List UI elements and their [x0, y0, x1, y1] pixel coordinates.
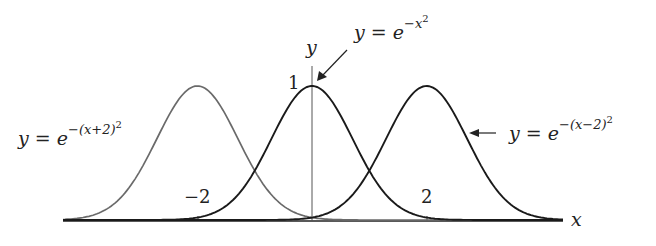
x-axis-label: x — [571, 208, 582, 230]
curve-shift-left — [63, 86, 563, 220]
curve-center — [63, 86, 563, 220]
label-left-gaussian: y = e−(x+2)2 — [17, 119, 122, 149]
svg-text:y = e−(x+2)2: y = e−(x+2)2 — [17, 119, 122, 149]
y-tick-label-one: 1 — [288, 72, 299, 93]
x-tick-label-neg2: −2 — [184, 186, 211, 207]
label-right-exponent: −(x−2) — [559, 117, 607, 132]
label-center-exponent: −x — [404, 16, 423, 31]
x-tick-label-pos2: 2 — [421, 186, 432, 207]
label-center-base: y = e — [353, 21, 404, 43]
label-center-gaussian: y = e−x2 — [353, 13, 429, 43]
label-right-base: y = e — [508, 122, 559, 144]
gaussian-shift-chart: x y −2 2 1 y = e−x2 y = e−(x+2)2 y = e−(… — [0, 0, 656, 246]
label-right-exponent-power: 2 — [607, 114, 613, 125]
arrow-right-curve-icon — [469, 129, 496, 137]
curve-shift-right — [63, 86, 563, 220]
svg-text:y = e−(x−2)2: y = e−(x−2)2 — [508, 114, 613, 144]
label-left-exponent: −(x+2) — [68, 122, 116, 137]
label-left-exponent-power: 2 — [116, 119, 122, 130]
y-axis-label: y — [305, 36, 317, 58]
arrow-center-icon — [317, 50, 347, 81]
label-center-exponent-power: 2 — [422, 13, 428, 24]
chart-canvas: x y −2 2 1 y = e−x2 y = e−(x+2)2 y = e−(… — [0, 0, 656, 246]
label-left-base: y = e — [17, 127, 68, 149]
label-right-gaussian: y = e−(x−2)2 — [508, 114, 613, 144]
svg-text:y = e−x2: y = e−x2 — [353, 13, 429, 43]
